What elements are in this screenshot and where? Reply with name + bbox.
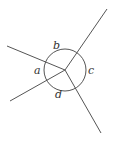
label-a: a — [34, 64, 41, 77]
angle-diagram: a b c d — [0, 0, 113, 148]
ray-lower-right — [65, 70, 101, 133]
ray-upper-right — [65, 9, 107, 70]
label-d: d — [55, 88, 62, 101]
label-b: b — [53, 39, 60, 52]
label-c: c — [88, 64, 94, 77]
